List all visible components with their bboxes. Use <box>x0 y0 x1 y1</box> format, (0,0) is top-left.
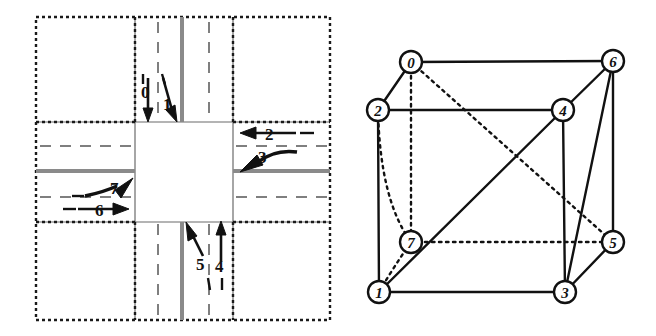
graph-node-3[interactable]: 3 <box>554 281 576 303</box>
edge-0-6 <box>411 61 613 62</box>
edge-4-3 <box>563 110 565 292</box>
graph-node-4[interactable]: 4 <box>552 99 574 121</box>
tick-near-1 <box>162 74 165 84</box>
arrow-movement-3 <box>240 151 297 172</box>
cube-graph-diagram: 0 6 2 4 7 <box>340 0 656 336</box>
edge-6-3 <box>565 61 613 292</box>
intersection-svg: 0 1 2 3 4 5 6 7 <box>0 0 340 336</box>
lane-label-0: 0 <box>141 83 150 102</box>
figure-root: 0 1 2 3 4 5 6 7 <box>0 0 656 336</box>
graph-node-3-label: 3 <box>560 285 569 301</box>
arrow-movement-6 <box>78 203 129 215</box>
edge-4-1 <box>379 110 563 292</box>
lane-label-5: 5 <box>196 255 205 274</box>
arrow-movement-4 <box>216 221 226 262</box>
graph-node-1-label: 1 <box>375 285 383 301</box>
lane-label-1: 1 <box>163 95 172 114</box>
intersection-diagram: 0 1 2 3 4 5 6 7 <box>0 0 340 336</box>
lane-label-3: 3 <box>258 148 267 167</box>
arrow-movement-5 <box>186 222 203 256</box>
graph-node-6[interactable]: 6 <box>602 50 624 72</box>
graph-node-5-label: 5 <box>609 235 617 251</box>
graph-node-5[interactable]: 5 <box>602 231 624 253</box>
graph-node-7-label: 7 <box>407 235 415 251</box>
edge-2-7 <box>378 110 411 242</box>
lane-label-7: 7 <box>110 179 119 198</box>
graph-node-0-label: 0 <box>407 55 415 71</box>
lane-label-2: 2 <box>265 125 274 144</box>
cube-graph-svg: 0 6 2 4 7 <box>340 0 656 336</box>
graph-node-1[interactable]: 1 <box>368 281 390 303</box>
graph-node-2[interactable]: 2 <box>367 99 389 121</box>
lane-label-6: 6 <box>95 201 104 220</box>
label-tick-marks <box>63 74 314 290</box>
graph-node-6-label: 6 <box>609 54 617 70</box>
arrow-movement-7 <box>85 178 133 198</box>
edge-0-5 <box>411 62 613 242</box>
graph-edges-solid <box>378 61 613 292</box>
graph-node-7[interactable]: 7 <box>400 231 422 253</box>
graph-node-0[interactable]: 0 <box>400 51 422 73</box>
lane-label-4: 4 <box>215 257 224 276</box>
lane-number-labels: 0 1 2 3 4 5 6 7 <box>95 83 274 276</box>
road-centerlines <box>36 17 330 320</box>
graph-node-4-label: 4 <box>558 103 567 119</box>
graph-node-2-label: 2 <box>373 103 382 119</box>
